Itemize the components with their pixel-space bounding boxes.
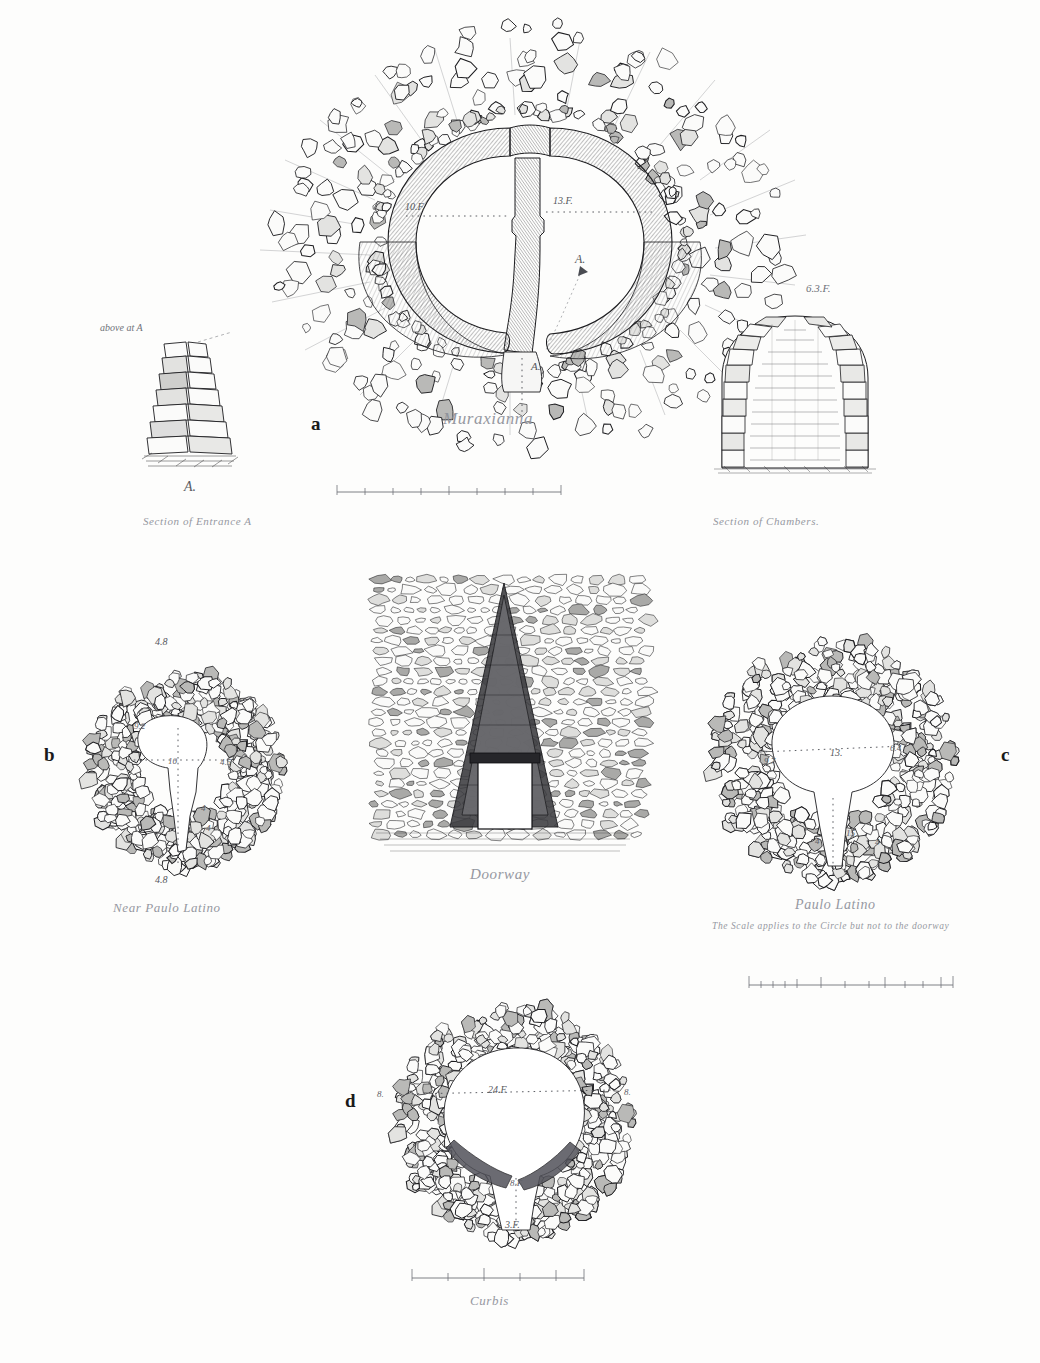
measurement-c-4b: 4 [875, 837, 880, 847]
scale-bar-panel-c [745, 972, 960, 990]
measurement-b-45: 4.5 [220, 757, 231, 767]
caption-paulo-latino: Paulo Latino [795, 897, 876, 913]
scale-bar-panel-a [335, 482, 565, 498]
caption-doorway: Doorway [470, 866, 530, 883]
panel-b-figure [78, 620, 293, 890]
measurement-d-24f: 24.F. [488, 1084, 508, 1095]
measurement-d-3f: 3.F. [505, 1219, 520, 1230]
panel-letter-d: d [345, 1090, 356, 1112]
doorway-figure [362, 565, 647, 860]
caption-near-paulo-latino: Near Paulo Latino [113, 900, 221, 916]
measurement-c-13: 13. [830, 747, 843, 758]
scale-bar-panel-d [408, 1265, 588, 1283]
note-section-chambers-height: 6.3.F. [806, 282, 831, 294]
archaeological-plate: 10.F. 13.F. A. A. a Muraxianna [0, 0, 1040, 1363]
measurement-a-13f: 13.F. [553, 195, 573, 206]
marker-a-lower: A. [531, 360, 540, 372]
measurement-a-10f: 10.F. [405, 201, 425, 212]
caption-curbis: Curbis [470, 1293, 509, 1309]
measurement-c-64: 6.4 [890, 743, 901, 753]
section-entrance-figure [128, 330, 258, 480]
measurement-b-10: 10 [168, 756, 177, 766]
measurement-b-bottom: 4.8 [155, 874, 168, 885]
panel-c-figure [700, 628, 965, 893]
measurement-d-left8: 8. [377, 1089, 384, 1099]
caption-section-of-chambers: Section of Chambers. [713, 515, 819, 527]
panel-letter-c: c [1001, 744, 1009, 766]
caption-muraxianna: Muraxianna [443, 409, 533, 429]
measurement-b-top: 4.8 [155, 636, 168, 647]
panel-d-figure [382, 990, 632, 1250]
note-above-at-a: above at A [100, 322, 143, 333]
measurement-c-15: 15 [846, 828, 855, 838]
section-chambers-figure [700, 300, 890, 475]
measurement-c-97: 9.7 [764, 756, 775, 766]
measurement-c-4a: 4 [815, 836, 820, 846]
panel-letter-a: a [311, 413, 321, 435]
measurement-b-4b: 4 [206, 823, 211, 833]
marker-a-upper: A. [575, 252, 585, 267]
caption-paulo-latino-note: The Scale applies to the Circle but not … [712, 921, 949, 931]
measurement-b-92: 9.2 [134, 721, 145, 731]
measurement-b-4a: 4 [201, 803, 206, 813]
caption-section-entrance-a: Section of Entrance A [143, 515, 252, 527]
measurement-d-right8: 8. [624, 1087, 631, 1097]
panel-letter-b: b [44, 744, 55, 766]
marker-entrance-a: A. [184, 479, 196, 495]
measurement-d-8f: 8.F. [510, 1178, 523, 1188]
